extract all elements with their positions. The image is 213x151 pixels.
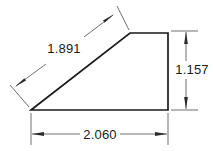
extension-line-hypotenuse-end (117, 6, 129, 30)
dimension-label-horizontal-base: 2.060 (83, 127, 117, 142)
dimension-label-vertical-right: 1.157 (175, 62, 209, 77)
arrowhead-vertical-bottom (184, 97, 188, 109)
dimension-vertical-right: 1.157 (171, 31, 209, 110)
extension-line-hypotenuse-start (10, 85, 29, 107)
engineering-drawing-canvas: 1.891 1.157 2.060 (0, 0, 213, 151)
arrowhead-base-right (155, 132, 167, 136)
dimension-label-hypotenuse: 1.891 (47, 41, 81, 56)
drawing-svg: 1.891 1.157 2.060 (0, 0, 213, 151)
dimension-horizontal-base: 2.060 (31, 113, 168, 145)
arrowhead-hypotenuse-end (103, 14, 114, 23)
arrowhead-hypotenuse-start (15, 78, 26, 87)
arrowhead-vertical-top (184, 32, 188, 44)
arrowhead-base-left (32, 132, 44, 136)
